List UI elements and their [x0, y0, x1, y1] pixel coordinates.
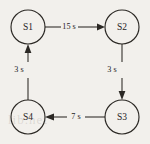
edge-s3-s4-label: 7 s [71, 112, 80, 121]
edge-s1-s2-arrowhead [97, 24, 105, 31]
figure-canvas: 15 s 3 s 7 s 3 s S1 [0, 0, 150, 144]
edge-s1-s2: 15 s [45, 22, 105, 31]
edge-s2-s3-arrowhead [119, 91, 126, 100]
node-s4-label: S4 [23, 112, 33, 122]
edge-s4-s1: 3 s [14, 44, 31, 100]
node-s3[interactable]: S3 [105, 100, 139, 134]
edge-s4-s1-arrowhead [25, 44, 32, 53]
node-s3-label: S3 [117, 112, 127, 122]
state-diagram: 15 s 3 s 7 s 3 s S1 [0, 0, 150, 144]
node-s2-label: S2 [117, 22, 127, 32]
edge-s3-s4-arrowhead [45, 114, 54, 121]
node-s4[interactable]: S4 [11, 100, 45, 134]
edge-s1-s2-label: 15 s [62, 22, 75, 31]
node-s1-label: S1 [23, 22, 33, 32]
node-s2[interactable]: S2 [105, 10, 139, 44]
edge-s4-s1-label: 3 s [14, 65, 23, 74]
edge-s2-s3-label: 3 s [107, 65, 116, 74]
edge-s3-s4: 7 s [45, 112, 105, 121]
edge-s2-s3: 3 s [107, 44, 125, 100]
node-s1[interactable]: S1 [11, 10, 45, 44]
